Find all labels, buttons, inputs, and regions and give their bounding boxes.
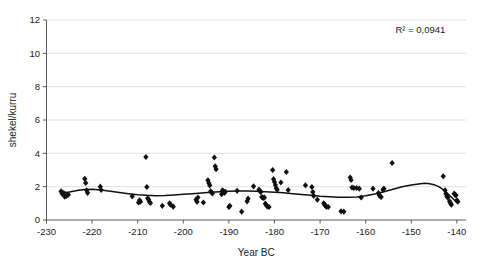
data-point bbox=[160, 203, 165, 209]
x-tick-label--160: -160 bbox=[356, 226, 375, 237]
data-points bbox=[58, 154, 460, 215]
x-tick-label--200: -200 bbox=[174, 226, 193, 237]
data-point bbox=[315, 197, 320, 203]
chart-container: 024681012 -230-220-210-200-190-180-170-1… bbox=[0, 0, 487, 269]
data-point bbox=[284, 169, 289, 175]
y-tick-label-12: 12 bbox=[29, 14, 40, 25]
data-point bbox=[389, 160, 394, 166]
x-tick-label--210: -210 bbox=[128, 226, 147, 237]
x-tick-label--220: -220 bbox=[83, 226, 102, 237]
data-point bbox=[358, 194, 363, 200]
x-tick-label--190: -190 bbox=[219, 226, 238, 237]
y-tick-label-10: 10 bbox=[29, 48, 40, 59]
data-point bbox=[251, 183, 256, 189]
y-tick-label-6: 6 bbox=[35, 114, 40, 125]
scatter-plot: 024681012 -230-220-210-200-190-180-170-1… bbox=[0, 0, 487, 269]
data-point bbox=[143, 154, 148, 160]
data-point bbox=[286, 187, 291, 193]
y-tick-label-2: 2 bbox=[35, 181, 40, 192]
y-tick-label-8: 8 bbox=[35, 81, 40, 92]
data-point bbox=[239, 209, 244, 215]
data-point bbox=[270, 167, 275, 173]
data-point bbox=[234, 188, 239, 194]
x-tick-label--140: -140 bbox=[447, 226, 466, 237]
gridlines bbox=[47, 20, 467, 187]
data-point bbox=[309, 184, 314, 190]
x-tick-label--170: -170 bbox=[311, 226, 330, 237]
x-axis-title: Year BC bbox=[238, 247, 275, 258]
x-tick-label--230: -230 bbox=[37, 226, 56, 237]
y-axis-title: shekel/kurru bbox=[7, 93, 18, 147]
y-axis-ticks: 024681012 bbox=[29, 14, 46, 225]
annotation-r-squared: R² = 0,0941 bbox=[395, 24, 445, 35]
trend-line bbox=[60, 183, 456, 201]
data-point bbox=[303, 182, 308, 188]
x-tick-label--180: -180 bbox=[265, 226, 284, 237]
y-tick-label-0: 0 bbox=[35, 214, 40, 225]
data-point bbox=[212, 154, 217, 160]
data-point bbox=[201, 199, 206, 205]
x-axis-ticks: -230-220-210-200-190-180-170-160-150-140 bbox=[37, 220, 466, 237]
data-point bbox=[441, 173, 446, 179]
data-point bbox=[278, 179, 283, 185]
data-point bbox=[144, 184, 149, 190]
x-tick-label--150: -150 bbox=[402, 226, 421, 237]
chart-annotations: R² = 0,0941 bbox=[395, 24, 445, 35]
y-tick-label-4: 4 bbox=[35, 148, 40, 159]
